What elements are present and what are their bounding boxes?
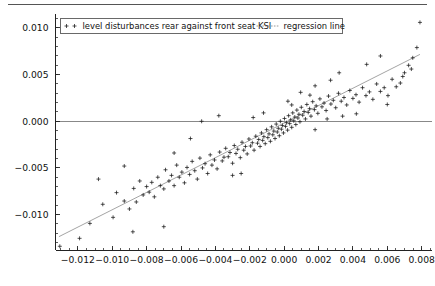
scatter-point	[167, 179, 171, 183]
scatter-point	[236, 147, 240, 151]
scatter-point	[320, 105, 324, 109]
scatter-point	[172, 151, 176, 155]
scatter-point	[409, 67, 413, 71]
x-tick-label: 0.004	[340, 254, 366, 265]
scatter-point	[327, 94, 331, 98]
scatter-point	[281, 131, 285, 135]
scatter-series	[58, 20, 422, 248]
scatter-point	[318, 97, 322, 101]
scatter-point	[195, 177, 199, 181]
scatter-point	[217, 114, 221, 118]
scatter-point	[339, 99, 343, 103]
y-tick-label: −0.005	[14, 162, 48, 173]
scatter-point	[101, 202, 105, 206]
x-tick-label: −0.010	[95, 254, 129, 265]
scatter-point	[288, 122, 292, 126]
scatter-point	[375, 82, 379, 86]
scatter-point	[122, 199, 126, 203]
scatter-point	[190, 159, 194, 163]
scatter-point	[394, 85, 398, 89]
scatter-point	[325, 117, 329, 121]
scatter-point	[298, 120, 302, 124]
scatter-point	[292, 119, 296, 123]
scatter-point	[287, 114, 291, 118]
scatter-point	[172, 184, 176, 188]
x-tick-label: −0.004	[198, 254, 232, 265]
scatter-point	[206, 172, 210, 176]
scatter-point	[361, 86, 365, 90]
scatter-point	[272, 129, 276, 133]
scatter-point	[311, 100, 315, 104]
scatter-point	[305, 102, 309, 106]
scatter-point	[200, 119, 204, 123]
scatter-point	[371, 97, 375, 101]
scatter-point	[78, 236, 82, 240]
scatter-point	[303, 117, 307, 121]
scatter-point	[286, 128, 290, 132]
scatter-point	[342, 95, 346, 99]
scatter-point	[164, 168, 168, 172]
scatter-point	[385, 102, 389, 106]
scatter-point	[329, 102, 333, 106]
scatter-point	[415, 46, 419, 50]
scatter-point	[134, 200, 138, 204]
scatter-point	[308, 107, 312, 111]
scatter-point	[138, 179, 142, 183]
scatter-point	[329, 78, 333, 82]
scatter-point	[231, 173, 235, 177]
scatter-point	[220, 159, 224, 163]
x-tick-label: −0.008	[130, 254, 164, 265]
scatter-point	[162, 187, 166, 191]
scatter-point	[259, 131, 263, 135]
scatter-point	[309, 114, 313, 118]
scatter-point	[198, 156, 202, 160]
scatter-point	[278, 119, 282, 123]
scatter-point	[150, 180, 154, 184]
scatter-point	[231, 161, 235, 165]
scatter-point	[291, 111, 295, 115]
scatter-point	[334, 106, 338, 110]
scatter-point	[200, 166, 204, 170]
scatter-point	[175, 163, 179, 167]
scatter-point	[284, 124, 288, 128]
scatter-point	[188, 137, 192, 141]
scatter-point	[226, 155, 230, 159]
figure-container: −0.012−0.010−0.008−0.006−0.004−0.0020.00…	[0, 0, 435, 286]
scatter-point	[407, 63, 411, 67]
y-tick-label: 0.010	[22, 22, 48, 33]
scatter-point	[242, 148, 246, 152]
scatter-point	[243, 144, 247, 148]
scatter-point	[354, 93, 358, 97]
y-tick-label: −0.010	[14, 209, 48, 220]
scatter-point	[122, 164, 126, 168]
scatter-point	[398, 81, 402, 85]
scatter-point	[193, 169, 197, 173]
scatter-point	[341, 114, 345, 118]
regression-line	[59, 54, 420, 236]
scatter-point	[252, 148, 256, 152]
scatter-point	[188, 172, 192, 176]
scatter-point	[267, 132, 271, 136]
scatter-plot: −0.012−0.010−0.008−0.006−0.004−0.0020.00…	[0, 0, 435, 286]
x-tick-label: 0.008	[409, 254, 435, 265]
x-tick-label: −0.002	[233, 254, 267, 265]
scatter-point	[215, 167, 219, 171]
scatter-point	[386, 94, 390, 98]
scatter-point	[262, 111, 266, 115]
x-tick-label: 0.000	[271, 254, 297, 265]
scatter-point	[152, 195, 156, 199]
scatter-point	[282, 116, 286, 120]
scatter-point	[295, 108, 299, 112]
scatter-point	[351, 96, 355, 100]
scatter-point	[354, 112, 358, 116]
scatter-point	[218, 150, 222, 154]
scatter-point	[208, 153, 212, 157]
scatter-point	[115, 191, 119, 195]
x-tick-label: 0.002	[305, 254, 331, 265]
scatter-point	[182, 181, 186, 185]
scatter-point	[274, 122, 278, 126]
scatter-point	[290, 125, 294, 129]
legend-label-scatter: level disturbances rear against front se…	[83, 21, 272, 31]
scatter-point	[262, 135, 266, 139]
scatter-point	[378, 54, 382, 58]
